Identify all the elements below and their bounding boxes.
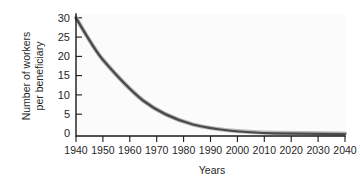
x-tick-label: 1960 [118,144,142,156]
y-tick-label: 20 [58,50,70,62]
x-tick-label: 2020 [280,144,304,156]
x-tick-label: 1940 [64,144,88,156]
workers-per-beneficiary-line-chart: 30 25 20 15 10 5 0 [0,0,360,184]
y-tick-label: 25 [58,31,70,43]
y-axis-title-line-1: Number of workers [20,32,32,121]
x-tick-label: 1970 [145,144,169,156]
x-tick-label: 2010 [253,144,277,156]
y-tick-label: 15 [58,69,70,81]
x-tick-label: 1950 [91,144,115,156]
chart-figure: 30 25 20 15 10 5 0 [0,0,360,184]
y-tick-label: 5 [64,108,70,120]
y-tick-label: 30 [58,12,70,24]
x-axis-tick-marks [76,136,345,142]
x-tick-label: 1990 [199,144,223,156]
y-tick-label: 10 [58,89,70,101]
x-tick-label: 2030 [306,144,330,156]
x-axis-tick-labels: 1940 1950 1960 1970 1980 1990 2000 2010 … [64,144,357,156]
y-tick-label: 0 [64,127,70,139]
y-axis-tick-labels: 30 25 20 15 10 5 0 [58,12,70,140]
x-tick-label: 2000 [226,144,250,156]
y-axis-title-line-2: per beneficiary [33,41,45,111]
x-tick-label: 1980 [172,144,196,156]
y-axis-title: Number of workers per beneficiary [20,32,45,121]
x-axis-title: Years [199,164,225,176]
x-tick-label: 2040 [333,144,357,156]
